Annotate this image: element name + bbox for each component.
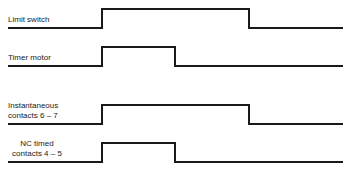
label-instantaneous-line2: contacts 6 – 7	[8, 111, 58, 121]
label-nc-timed-line2: contacts 4 – 5	[8, 149, 66, 159]
label-limit-switch: Limit switch	[8, 15, 49, 25]
trace-limit-switch	[8, 9, 343, 28]
label-instantaneous-contacts: Instantaneous contacts 6 – 7	[8, 101, 58, 121]
label-timer-motor: Timer motor	[8, 53, 51, 63]
trace-timer-motor	[8, 47, 343, 66]
label-nc-timed-line1: NC timed	[8, 139, 66, 149]
label-instantaneous-line1: Instantaneous	[8, 101, 58, 111]
label-nc-timed-contacts: NC timed contacts 4 – 5	[8, 139, 66, 159]
